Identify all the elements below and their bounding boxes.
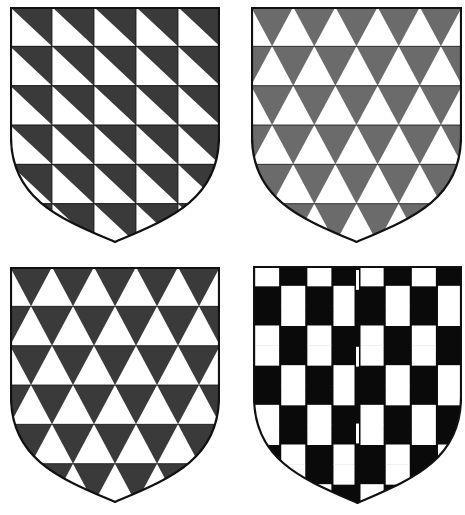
shield-triangles-dark — [10, 267, 220, 503]
shield-potent — [253, 266, 462, 504]
shield-barry-per-bend — [10, 7, 220, 243]
shield-triangles-gray — [251, 7, 462, 243]
